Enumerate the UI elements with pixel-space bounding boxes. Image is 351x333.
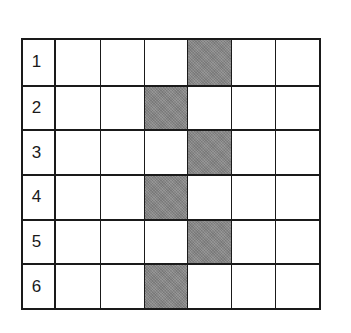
grid-cell-shaded bbox=[187, 219, 231, 264]
grid-cell-shaded bbox=[144, 174, 188, 219]
grid-cell-shaded bbox=[187, 129, 231, 174]
grid-cell bbox=[100, 263, 144, 308]
grid-cell bbox=[231, 85, 275, 130]
grid-cell bbox=[187, 85, 231, 130]
grid-cell-shaded bbox=[144, 263, 188, 308]
grid-cell bbox=[275, 263, 319, 308]
row-label: 4 bbox=[23, 174, 56, 219]
grid-cell-shaded bbox=[187, 40, 231, 85]
grid-cell bbox=[275, 219, 319, 264]
grid-cell bbox=[100, 85, 144, 130]
grid-cell bbox=[231, 219, 275, 264]
grid-cell bbox=[56, 174, 100, 219]
grid-cell bbox=[187, 174, 231, 219]
grid-cell bbox=[100, 129, 144, 174]
grid-cell bbox=[56, 40, 100, 85]
grid-cell bbox=[231, 174, 275, 219]
grid-cell bbox=[231, 129, 275, 174]
row-label: 3 bbox=[23, 129, 56, 174]
grid-cell bbox=[144, 129, 188, 174]
grid-cell bbox=[275, 85, 319, 130]
pattern-grid: 123456 bbox=[21, 38, 321, 310]
grid-cell bbox=[56, 85, 100, 130]
grid-cell bbox=[56, 263, 100, 308]
row-label: 2 bbox=[23, 85, 56, 130]
row-label: 5 bbox=[23, 219, 56, 264]
grid-cell bbox=[100, 174, 144, 219]
grid-cell bbox=[56, 219, 100, 264]
grid-cell bbox=[231, 40, 275, 85]
grid-cell-shaded bbox=[144, 85, 188, 130]
grid-cell bbox=[100, 40, 144, 85]
grid-cell bbox=[231, 263, 275, 308]
grid-cell bbox=[275, 40, 319, 85]
grid-cell bbox=[56, 129, 100, 174]
grid-cell bbox=[275, 129, 319, 174]
row-label: 1 bbox=[23, 40, 56, 85]
grid-cell bbox=[187, 263, 231, 308]
grid-cell bbox=[100, 219, 144, 264]
grid-cell bbox=[144, 219, 188, 264]
row-label: 6 bbox=[23, 263, 56, 308]
grid-cell bbox=[144, 40, 188, 85]
grid-cell bbox=[275, 174, 319, 219]
